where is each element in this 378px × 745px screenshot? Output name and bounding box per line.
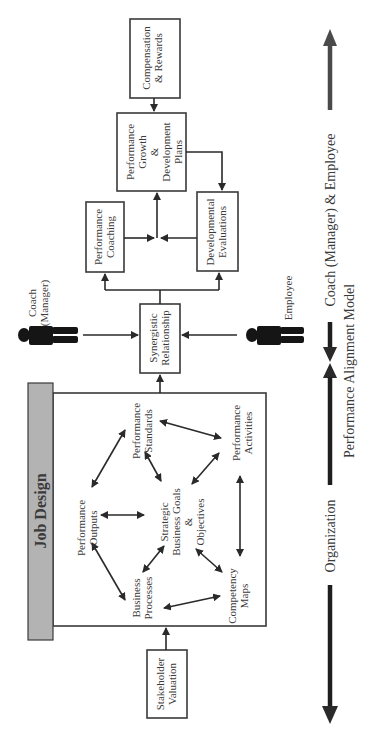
job-design-group: Job Design Performance Outputs Performan… (28, 383, 266, 640)
svg-text:Synergistic: Synergistic (147, 313, 159, 362)
svg-text:Growth: Growth (136, 135, 148, 169)
performance-alignment-diagram: Job Design Performance Outputs Performan… (0, 0, 378, 745)
growth-plans-group: Performance Growth & Development Plans (117, 113, 222, 191)
svg-text:Developmental: Developmental (204, 198, 216, 265)
svg-text:& Rewards: & Rewards (152, 33, 164, 83)
coach-employee-label: Coach (Manager) & Employee (323, 134, 339, 307)
svg-text:Development: Development (160, 122, 172, 181)
svg-text:Processes: Processes (142, 577, 154, 620)
svg-text:Valuation: Valuation (166, 662, 178, 705)
coach-employee-arrowhead-icon (323, 29, 337, 46)
svg-text:Strategic: Strategic (158, 502, 170, 541)
svg-text:Compensation: Compensation (140, 26, 152, 90)
employee-person-icon (246, 326, 304, 345)
svg-text:Objectives: Objectives (194, 498, 206, 545)
svg-text:Standards: Standards (142, 409, 154, 452)
diagram-caption: Performance Alignment Model (342, 284, 357, 458)
coach-person-icon (18, 326, 78, 345)
svg-text:Evaluations: Evaluations (216, 206, 228, 258)
node-performance-activities: Performance Activities (230, 405, 254, 461)
job-design-title: Job Design (32, 473, 50, 548)
svg-text:(Manager): (Manager) (38, 279, 51, 326)
svg-text:Business: Business (130, 578, 142, 617)
svg-text:Performance: Performance (75, 500, 87, 556)
svg-text:&: & (148, 147, 160, 156)
svg-text:Maps: Maps (238, 584, 250, 608)
arrow-growth-to-evaluations (186, 152, 222, 190)
svg-text:Activities: Activities (242, 412, 254, 455)
synergistic-relationship-group: Synergistic Relationship (83, 273, 237, 393)
employee-actor: Employee (246, 276, 304, 345)
svg-text:Relationship: Relationship (159, 310, 171, 366)
center-up-arrowhead-icon (323, 363, 337, 378)
node-performance-standards: Performance Standards (130, 403, 154, 459)
svg-text:Plans: Plans (172, 140, 184, 164)
svg-text:Performance: Performance (230, 405, 242, 461)
svg-text:Employee: Employee (282, 276, 294, 321)
node-business-processes: Business Processes (130, 577, 154, 620)
stakeholder-valuation-group: Stakeholder Valuation (147, 628, 187, 718)
performance-coaching-group: Performance Coaching (86, 202, 124, 272)
developmental-evaluations-group: Developmental Evaluations (197, 192, 238, 271)
svg-text:Stakeholder: Stakeholder (154, 657, 166, 710)
svg-text:Performance: Performance (92, 209, 104, 265)
svg-text:Outputs: Outputs (87, 511, 99, 546)
center-down-arrowhead-icon (323, 347, 337, 362)
organization-label: Organization (323, 500, 338, 573)
svg-text:Competency: Competency (226, 568, 238, 624)
svg-text:Performance: Performance (130, 403, 142, 459)
alignment-axis: Coach (Manager) & Employee Organization … (322, 29, 357, 724)
svg-text:Business Goals: Business Goals (170, 488, 182, 556)
organization-arrowhead-icon (322, 706, 338, 724)
svg-text:&: & (182, 517, 194, 526)
svg-text:Coach: Coach (26, 288, 38, 317)
svg-text:Performance: Performance (124, 124, 136, 180)
coach-actor: Coach (Manager) (18, 279, 78, 345)
compensation-rewards-group: Compensation & Rewards (130, 19, 180, 111)
svg-text:Coaching: Coaching (104, 215, 116, 258)
